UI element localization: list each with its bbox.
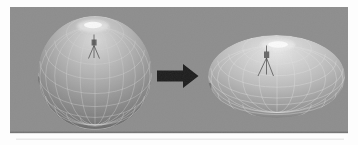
sphere-cap-highlight	[84, 22, 102, 28]
manipulator-box	[92, 40, 97, 46]
squashed-cap-highlight	[268, 41, 288, 47]
scan-artifact-line	[16, 139, 344, 140]
squashed-manipulator-box	[264, 52, 269, 59]
panel-bottom-edge	[10, 132, 348, 134]
figure-root	[0, 0, 358, 145]
figure-canvas	[0, 0, 358, 145]
